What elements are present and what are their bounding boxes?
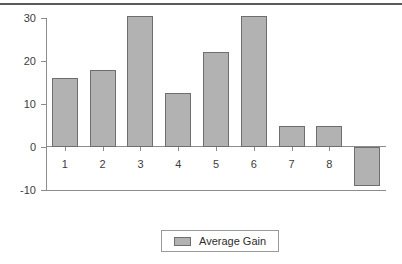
- y-axis-tick: [41, 147, 46, 148]
- x-axis-tick-label: 3: [137, 158, 143, 170]
- y-axis-tick: [41, 18, 46, 19]
- x-axis-tick-label: 4: [175, 158, 181, 170]
- y-axis-tick-label: 0: [30, 141, 36, 153]
- y-axis-tick: [41, 104, 46, 105]
- bar: [354, 147, 380, 186]
- y-axis-line: [46, 18, 47, 190]
- x-axis-tick-label: 6: [251, 158, 257, 170]
- bar: [127, 16, 153, 147]
- y-axis-tick-label: -10: [20, 184, 36, 196]
- bar: [90, 70, 116, 147]
- bar: [279, 126, 305, 148]
- legend-swatch-average-gain: [174, 237, 191, 246]
- x-axis-tick-label: 8: [326, 158, 332, 170]
- chart-legend: Average Gain: [161, 230, 279, 252]
- bar-chart-figure: 3020100-10 123456789 Average Gain: [0, 0, 402, 264]
- bar: [203, 52, 229, 147]
- bar: [241, 16, 267, 147]
- bar: [165, 93, 191, 147]
- x-axis-tick-label: 5: [213, 158, 219, 170]
- y-axis-tick: [41, 61, 46, 62]
- x-axis-tick-label: 1: [62, 158, 68, 170]
- top-divider-rule: [0, 3, 402, 5]
- y-axis-tick: [41, 190, 46, 191]
- x-axis-tick-label: 7: [288, 158, 294, 170]
- bar: [52, 78, 78, 147]
- x-axis-tick-label: 2: [100, 158, 106, 170]
- x-axis-bottom-line: [46, 190, 386, 191]
- y-axis-tick-label: 20: [24, 55, 36, 67]
- legend-label-average-gain: Average Gain: [199, 235, 266, 247]
- plot-area: 3020100-10 123456789: [46, 18, 386, 190]
- y-axis-tick-label: 30: [24, 12, 36, 24]
- y-axis-tick-label: 10: [24, 98, 36, 110]
- bar: [316, 126, 342, 148]
